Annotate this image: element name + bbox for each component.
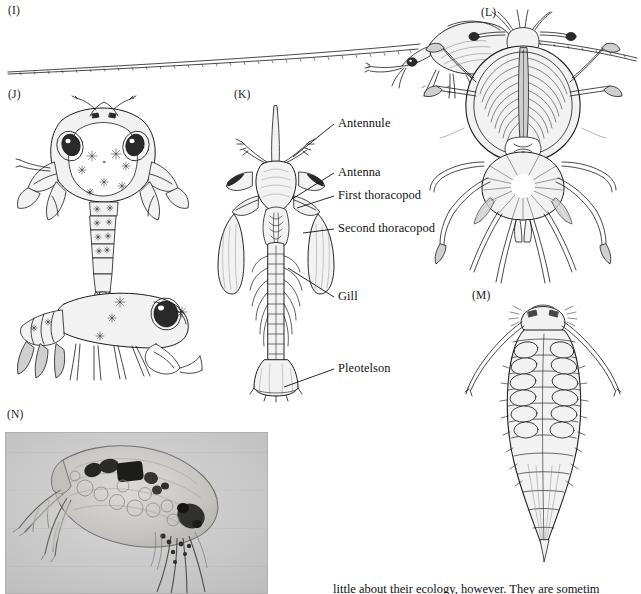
leader-antenna — [292, 173, 334, 199]
callout-antennule: Antennule — [338, 116, 391, 131]
panel-letter-k: (K) — [234, 88, 251, 100]
leader-antennule — [293, 124, 334, 157]
callout-gill: Gill — [338, 289, 358, 304]
callout-leaders — [0, 0, 641, 594]
body-text-clipped: little about their ecology, however. The… — [333, 582, 641, 594]
leader-first-thoracopod — [297, 196, 334, 208]
callout-second-thoracopod: Second thoracopod — [338, 221, 435, 236]
panel-letter-n: (N) — [7, 408, 24, 420]
panel-letter-m: (M) — [472, 289, 491, 301]
callout-first-thoracopod: First thoracopod — [338, 188, 421, 203]
callout-pleotelson: Pleotelson — [338, 361, 391, 376]
leader-second-thoracopod — [303, 229, 334, 233]
panel-letter-i: (I) — [8, 4, 20, 16]
figure-plate: (I) (J) (K) (L) (M) (N) Antennule Antenn… — [0, 0, 641, 594]
leader-gill — [288, 268, 334, 297]
callout-antenna: Antenna — [338, 165, 381, 180]
leader-pleotelson — [284, 369, 334, 387]
panel-letter-j: (J) — [8, 88, 21, 100]
panel-letter-l: (L) — [481, 6, 496, 18]
